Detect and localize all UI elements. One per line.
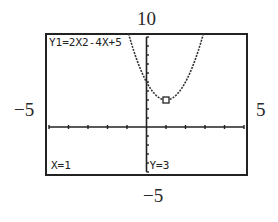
x-readout: X=1 (51, 159, 71, 172)
ymax-label: 10 (137, 9, 156, 28)
calculator-graph-screen: Y1=2X2-4X+5 X=1 Y=3 (45, 33, 248, 176)
y-readout: Y=3 (150, 159, 170, 172)
graph-plot: Y1=2X2-4X+5 X=1 Y=3 (45, 33, 248, 176)
xmax-label: 5 (256, 100, 266, 119)
ymin-label: −5 (143, 186, 163, 205)
equation-label: Y1=2X2-4X+5 (49, 36, 122, 49)
trace-cursor (163, 97, 169, 103)
xmin-label: −5 (14, 100, 34, 119)
